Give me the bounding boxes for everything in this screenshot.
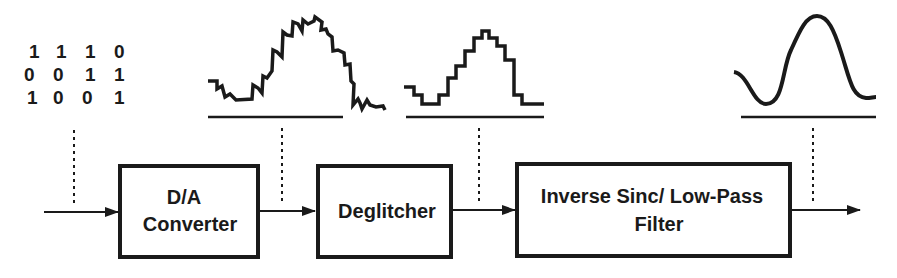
block-filter-label-line1: Inverse Sinc/ Low-Pass [541,185,763,207]
input-bits: 1 1 1 0 0 0 1 1 1 0 0 1 [24,41,125,108]
bit: 1 [114,64,125,85]
bit: 1 [29,41,40,62]
block-dac: D/A Converter [120,166,258,257]
bit: 1 [85,41,96,62]
bit: 0 [53,64,64,85]
dac-signal-chain-diagram: 1 1 1 0 0 0 1 1 1 0 0 1 [0,0,897,278]
bit: 0 [53,87,64,108]
dac-output-waveform [208,17,385,117]
block-deglitcher-label: Deglitcher [338,200,436,222]
bit: 1 [85,64,96,85]
bit: 0 [82,87,93,108]
block-dac-label-line2: Converter [143,213,238,235]
block-dac-label-line1: D/A [167,186,201,208]
bit: 1 [56,41,67,62]
block-filter: Inverse Sinc/ Low-Pass Filter [517,164,790,256]
bit: 1 [27,87,38,108]
block-deglitcher: Deglitcher [318,166,451,257]
bit: 0 [24,64,35,85]
bit: 1 [114,87,125,108]
deglitcher-output-waveform [404,31,544,117]
bit: 0 [114,41,125,62]
filter-output-waveform [734,16,876,117]
block-filter-label-line2: Filter [635,213,684,235]
